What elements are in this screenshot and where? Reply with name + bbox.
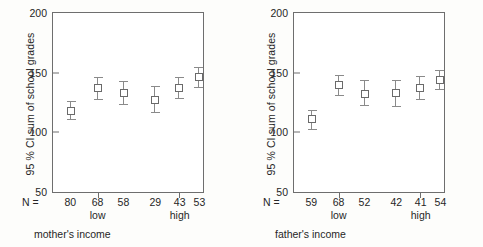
- group-label-high: high: [411, 209, 431, 221]
- y-tick-label-right: 100: [270, 126, 288, 138]
- whisker-cap-upper: [119, 81, 128, 82]
- n-value-label: 53: [194, 196, 206, 208]
- n-value-label: 54: [435, 196, 447, 208]
- whisker-cap-upper: [67, 101, 76, 102]
- mean-marker: [175, 84, 183, 92]
- mean-marker: [361, 90, 369, 98]
- whisker-cap-lower: [435, 89, 444, 90]
- n-prefix-label: N =: [263, 196, 280, 208]
- n-value-label: 68: [333, 196, 345, 208]
- whisker-cap-lower: [119, 104, 128, 105]
- plot-inner-left: 20015010050: [53, 13, 203, 192]
- whisker-cap-upper: [308, 110, 317, 111]
- n-value-label: 80: [64, 196, 76, 208]
- mean-marker: [151, 96, 159, 104]
- mean-marker: [195, 73, 203, 81]
- y-tick-label-right: 200: [270, 7, 288, 19]
- whisker-cap-lower: [94, 99, 103, 100]
- mean-marker: [392, 89, 400, 97]
- whisker-cap-lower: [308, 129, 317, 130]
- whisker-cap-upper: [194, 67, 203, 68]
- y-axis-title-right: 95 % CI sum of school grades: [265, 18, 277, 190]
- n-prefix-label: N =: [22, 196, 39, 208]
- n-label-row-left: N =806858294353: [0, 196, 241, 210]
- mean-marker: [436, 76, 444, 84]
- y-tick-label-right: 150: [270, 67, 288, 79]
- n-value-label: 68: [92, 196, 104, 208]
- whisker-cap-lower: [194, 87, 203, 88]
- whisker-cap-upper: [175, 77, 184, 78]
- n-value-label: 59: [305, 196, 317, 208]
- panel-mothers-income: 95 % CI sum of school grades 20015010050…: [0, 0, 241, 247]
- n-value-label: 41: [415, 196, 427, 208]
- whisker-cap-upper: [94, 77, 103, 78]
- mean-marker: [308, 115, 316, 123]
- plot-area-right: 20015010050: [293, 12, 445, 193]
- whisker-cap-lower: [360, 105, 369, 106]
- n-label-row-right: N =596852424154: [241, 196, 482, 210]
- group-label-high: high: [170, 209, 190, 221]
- mean-marker: [335, 81, 343, 89]
- mean-marker: [67, 107, 75, 115]
- y-tick-label-left: 100: [29, 126, 47, 138]
- whisker-cap-lower: [151, 112, 160, 113]
- whisker-cap-lower: [416, 99, 425, 100]
- x-axis-title-right: father's income: [241, 228, 482, 240]
- mean-marker: [416, 84, 424, 92]
- n-value-label: 52: [359, 196, 371, 208]
- panel-fathers-income: 95 % CI sum of school grades 20015010050…: [241, 0, 482, 247]
- whisker-cap-lower: [392, 106, 401, 107]
- whisker-cap-upper: [416, 76, 425, 77]
- y-tick-mark-left: [53, 72, 59, 73]
- n-value-label: 43: [174, 196, 186, 208]
- n-value-label: 58: [118, 196, 130, 208]
- y-axis-title-left: 95 % CI sum of school grades: [24, 18, 36, 190]
- y-tick-mark-right: [294, 132, 300, 133]
- plot-inner-right: 20015010050: [294, 13, 444, 192]
- group-label-low: low: [331, 209, 347, 221]
- whisker-cap-lower: [335, 95, 344, 96]
- n-value-label: 42: [391, 196, 403, 208]
- whisker-cap-lower: [67, 119, 76, 120]
- whisker-cap-upper: [335, 75, 344, 76]
- whisker-cap-upper: [151, 86, 160, 87]
- y-tick-mark-right: [294, 72, 300, 73]
- group-label-low: low: [90, 209, 106, 221]
- whisker-cap-lower: [175, 98, 184, 99]
- mean-marker: [120, 89, 128, 97]
- whisker-cap-upper: [435, 70, 444, 71]
- x-axis-title-left: mother's income: [0, 228, 241, 240]
- mean-marker: [94, 84, 102, 92]
- y-tick-mark-left: [53, 132, 59, 133]
- whisker-cap-upper: [392, 80, 401, 81]
- whisker-cap-upper: [360, 80, 369, 81]
- y-tick-label-left: 200: [29, 7, 47, 19]
- y-tick-label-left: 150: [29, 67, 47, 79]
- n-value-label: 29: [150, 196, 162, 208]
- figure-two-panel-ci-plot: 95 % CI sum of school grades 20015010050…: [0, 0, 483, 247]
- plot-area-left: 20015010050: [52, 12, 204, 193]
